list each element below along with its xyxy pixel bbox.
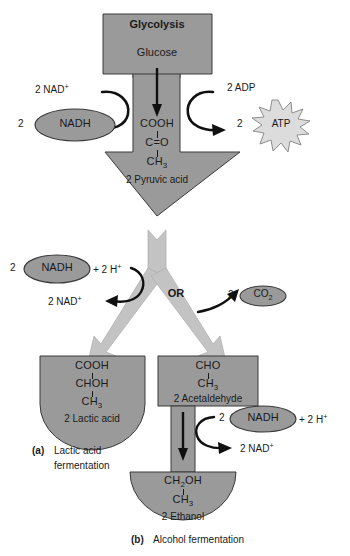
lactic-line1: COOH bbox=[75, 360, 109, 372]
atp-curved-arrowhead bbox=[212, 124, 226, 136]
adp-input-label: 2 ADP bbox=[227, 83, 255, 94]
or-label: OR bbox=[168, 288, 185, 300]
caption-a-line1: Lactic acid bbox=[54, 446, 101, 457]
caption-b-tag: (b) bbox=[131, 535, 144, 546]
branch-stem-arrow bbox=[148, 230, 166, 272]
atp-curved-arrow bbox=[188, 92, 218, 130]
caption-a-tag: (a) bbox=[32, 446, 44, 457]
branch-right-arrow bbox=[151, 268, 226, 362]
pyruvate-line2: C=O bbox=[145, 137, 169, 149]
acetaldehyde-line2: CH3 bbox=[198, 378, 219, 393]
ethanol-line2: CH3 bbox=[173, 494, 194, 509]
co2-label: CO2 bbox=[254, 289, 273, 302]
caption-a-line2: fermentation bbox=[54, 461, 110, 472]
pyruvate-name: 2 Pyruvic acid bbox=[126, 175, 188, 186]
lactic-name: 2 Lactic acid bbox=[64, 414, 120, 425]
caption-b-text: Alcohol fermentation bbox=[153, 535, 244, 546]
branch-left-arrow bbox=[88, 268, 163, 362]
branch-nadh-count: 2 bbox=[10, 263, 16, 274]
branch-nadh-protons: + 2 H+ bbox=[93, 263, 121, 276]
lactic-line3: CH3 bbox=[82, 396, 103, 411]
fermentation-diagram: Glycolysis Glucose 2 NAD+ 2 NADH 2 ADP 2… bbox=[0, 0, 350, 556]
co2-count: 2 bbox=[228, 290, 234, 301]
atp-label: ATP bbox=[272, 119, 291, 130]
alcohol-nadh-protons: + 2 H+ bbox=[299, 413, 327, 426]
nadh-label-glycolysis: NADH bbox=[59, 118, 90, 130]
glycolysis-title: Glycolysis bbox=[129, 19, 184, 31]
alcohol-nadh-curved-arrowhead bbox=[218, 442, 232, 454]
branch-nadh-label: NADH bbox=[41, 262, 72, 274]
lactic-line2: CHOH bbox=[75, 378, 108, 390]
ethanol-line1: CH2OH bbox=[164, 475, 202, 490]
branch-nadh-curved-arrowhead bbox=[105, 295, 118, 307]
ethanol-name: 2 Ethanol bbox=[162, 512, 204, 523]
acetaldehyde-name: 2 Acetaldehyde bbox=[174, 394, 242, 405]
acetaldehyde-line1: CHO bbox=[195, 360, 220, 372]
pyruvate-line3: CH3 bbox=[147, 156, 168, 171]
glycolysis-arrow-shaft-and-head bbox=[105, 74, 240, 216]
pyruvate-line1: COOH bbox=[140, 118, 174, 130]
alcohol-nad-plus-product: 2 NAD+ bbox=[240, 442, 274, 455]
nad-plus-input-label: 2 NAD+ bbox=[35, 83, 69, 96]
branch-nad-plus-product: 2 NAD+ bbox=[48, 295, 82, 308]
nadh-count-glycolysis: 2 bbox=[18, 119, 24, 130]
glucose-label: Glucose bbox=[137, 47, 177, 59]
alcohol-nadh-count: 2 bbox=[219, 413, 225, 424]
atp-count-label: 2 bbox=[237, 119, 243, 130]
alcohol-nadh-label: NADH bbox=[247, 412, 278, 424]
